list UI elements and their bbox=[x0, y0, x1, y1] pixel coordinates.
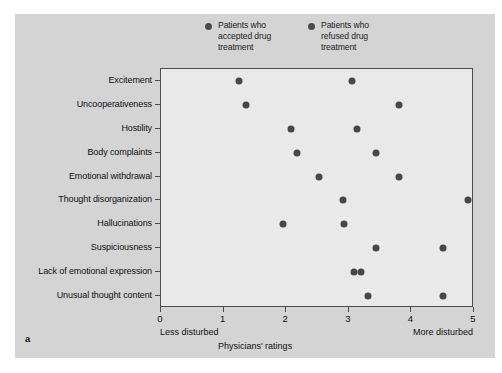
data-point bbox=[280, 221, 287, 228]
data-point bbox=[339, 197, 346, 204]
data-point bbox=[364, 293, 371, 300]
plot-area bbox=[160, 68, 473, 307]
legend-dot-icon bbox=[308, 23, 315, 30]
x-axis-title: Physicians' ratings bbox=[15, 341, 495, 351]
figure-panel: Patients who accepted drug treatment Pat… bbox=[15, 14, 495, 358]
y-axis-label: Excitement bbox=[108, 75, 152, 85]
legend-label-refused: Patients who refused drug treatment bbox=[321, 20, 369, 53]
x-axis-tick bbox=[348, 307, 349, 312]
data-point bbox=[236, 77, 243, 84]
data-point bbox=[439, 245, 446, 252]
data-point bbox=[358, 269, 365, 276]
legend-item-accepted: Patients who accepted drug treatment bbox=[205, 20, 271, 53]
data-point bbox=[464, 197, 471, 204]
data-point bbox=[372, 149, 379, 156]
y-axis-label: Hostility bbox=[121, 123, 152, 133]
chart-legend: Patients who accepted drug treatment Pat… bbox=[15, 14, 495, 70]
x-axis-ticklabel: 2 bbox=[283, 313, 288, 324]
y-axis-label: Thought disorganization bbox=[58, 194, 152, 204]
x-axis-low-label: Less disturbed bbox=[160, 327, 219, 337]
x-axis-tick bbox=[473, 307, 474, 312]
data-point bbox=[348, 77, 355, 84]
legend-item-refused: Patients who refused drug treatment bbox=[308, 20, 369, 53]
data-point bbox=[350, 269, 357, 276]
x-axis-ticklabel: 5 bbox=[470, 313, 475, 324]
y-axis-label: Suspiciousness bbox=[91, 242, 152, 252]
data-point bbox=[395, 101, 402, 108]
y-axis-label: Hallucinations bbox=[97, 218, 152, 228]
x-axis-ticklabel: 4 bbox=[408, 313, 413, 324]
x-axis-tick bbox=[160, 307, 161, 312]
y-axis-label: Lack of emotional expression bbox=[38, 266, 152, 276]
legend-dot-icon bbox=[205, 23, 212, 30]
legend-label-accepted: Patients who accepted drug treatment bbox=[218, 20, 271, 53]
x-axis-ticklabel: 3 bbox=[345, 313, 350, 324]
x-axis-tick bbox=[223, 307, 224, 312]
data-point bbox=[353, 125, 360, 132]
data-point bbox=[242, 101, 249, 108]
y-axis-label: Uncooperativeness bbox=[77, 99, 152, 109]
data-point bbox=[287, 125, 294, 132]
data-point bbox=[341, 221, 348, 228]
data-point bbox=[315, 173, 322, 180]
data-point bbox=[372, 245, 379, 252]
x-axis-tick bbox=[285, 307, 286, 312]
x-axis-ticklabel: 1 bbox=[220, 313, 225, 324]
x-axis-high-label: More disturbed bbox=[413, 327, 473, 337]
x-axis-tick bbox=[410, 307, 411, 312]
data-point bbox=[294, 149, 301, 156]
data-point bbox=[395, 173, 402, 180]
y-axis-label: Unusual thought content bbox=[57, 290, 152, 300]
x-axis-ticklabel: 0 bbox=[157, 313, 162, 324]
data-point bbox=[439, 293, 446, 300]
y-axis-label: Emotional withdrawal bbox=[69, 171, 152, 181]
panel-letter: a bbox=[25, 333, 30, 344]
y-axis-label: Body complaints bbox=[87, 147, 152, 157]
